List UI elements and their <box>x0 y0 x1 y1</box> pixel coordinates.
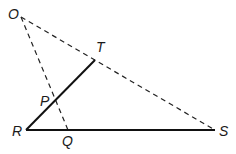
geometry-diagram: O T P R Q S <box>0 0 236 154</box>
segment-os <box>21 17 215 130</box>
segment-rt <box>26 60 95 130</box>
label-q: Q <box>62 133 73 149</box>
label-t: T <box>96 39 106 55</box>
segment-oq <box>21 17 68 130</box>
label-p: P <box>40 93 50 109</box>
label-r: R <box>12 123 22 139</box>
label-o: O <box>8 6 19 22</box>
label-s: S <box>219 123 229 139</box>
